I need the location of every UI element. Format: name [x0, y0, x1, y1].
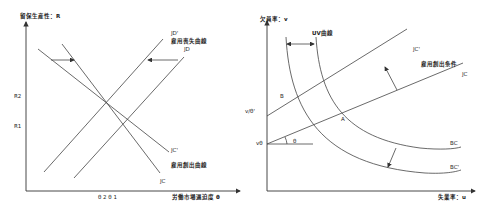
diagram-canvas: 留保生産性：R 労働市場逼迫度 θ R2 R1 θ 2 θ 1 JD' 雇用喪失… [0, 0, 484, 213]
left-x-axis-label: 労働市場逼迫度 θ [172, 193, 220, 201]
jc-prime-curve-left [38, 49, 169, 152]
right-y-axis-label: 欠員率：v [260, 15, 288, 23]
right-x-axis-label: 失業率：u [438, 193, 466, 201]
bc-curve [316, 37, 461, 149]
point-b-label: B [280, 93, 284, 99]
bc-shift-arrow [388, 148, 396, 167]
angle-arc [285, 137, 287, 144]
jd-prime-curve [44, 39, 163, 172]
jc-line [267, 63, 463, 144]
jd-curve [74, 57, 184, 178]
job-creation-caption-left: 雇用創出曲線 [171, 161, 207, 169]
bc-label: BC [450, 140, 458, 146]
angle-label: θ [293, 138, 297, 144]
jd-label: JD [183, 46, 190, 53]
y-tick-r1: R1 [14, 123, 21, 129]
y-tick-v-theta-prime: v/θ' [245, 108, 255, 114]
y-tick-v-theta: vθ [256, 140, 263, 146]
left-diagram: 留保生産性：R 労働市場逼迫度 θ R2 R1 θ 2 θ 1 JD' 雇用喪失… [14, 12, 240, 201]
jc-prime-label-left: JC' [170, 147, 178, 154]
point-a-label: A [341, 116, 345, 122]
right-diagram: 欠員率：v 失業率：u v/θ' vθ θ UV曲線 JC' 雇用創出条件 JC… [245, 15, 475, 201]
bc-prime-curve [286, 37, 461, 173]
uv-curve-caption: UV曲線 [312, 29, 333, 37]
jd-prime-label: JD' [170, 30, 178, 37]
left-y-axis-label: 留保生産性：R [20, 12, 61, 20]
bc-prime-label: BC' [450, 164, 459, 170]
jc-prime-line [267, 29, 407, 116]
jc-prime-label-right: JC' [412, 46, 420, 53]
jc-curve-left [62, 44, 160, 173]
jc-rotation-arrow [385, 67, 397, 90]
y-tick-r2: R2 [14, 93, 21, 99]
job-creation-condition-caption: 雇用創出条件 [421, 60, 457, 68]
jc-label-left: JC [159, 178, 166, 185]
x-ticks: θ 2 θ 1 [98, 194, 117, 200]
job-destruction-caption: 雇用喪失曲線 [171, 37, 207, 45]
jc-label-right: JC [461, 71, 468, 78]
